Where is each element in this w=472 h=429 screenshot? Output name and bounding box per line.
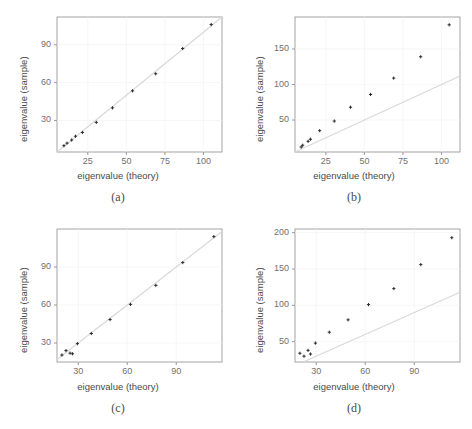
panel-caption: (b) xyxy=(236,190,472,205)
panel-caption: (d) xyxy=(236,401,472,416)
x-tick-label: 90 xyxy=(400,366,428,376)
y-tick-label: 90 xyxy=(41,261,51,271)
y-tick-label: 30 xyxy=(41,114,51,124)
x-tick-label: 25 xyxy=(312,156,340,166)
scatter-plot-b xyxy=(236,0,472,215)
x-tick-label: 60 xyxy=(351,366,379,376)
y-tick-label: 100 xyxy=(274,79,289,89)
figure-panel-grid: 306090255075100eigenvalue (sample)eigenv… xyxy=(0,0,472,429)
y-axis-title: eigenvalue (sample) xyxy=(254,267,265,353)
x-tick-label: 50 xyxy=(350,156,378,166)
x-tick-label: 100 xyxy=(189,156,217,166)
y-tick-label: 50 xyxy=(279,336,289,346)
y-tick-label: 200 xyxy=(274,227,289,237)
scatter-plot-c xyxy=(0,215,236,429)
x-tick-label: 50 xyxy=(112,156,140,166)
scatter-plot-d xyxy=(236,215,472,429)
y-tick-label: 150 xyxy=(274,263,289,273)
x-tick-label: 100 xyxy=(427,156,455,166)
x-axis-title: eigenvalue (theory) xyxy=(0,170,236,181)
panel-caption: (c) xyxy=(0,401,236,416)
x-tick-label: 90 xyxy=(162,366,190,376)
panel-c: 306090306090eigenvalue (sample)eigenvalu… xyxy=(0,215,236,429)
y-tick-label: 150 xyxy=(274,43,289,53)
x-axis-title: eigenvalue (theory) xyxy=(0,381,236,392)
x-tick-label: 75 xyxy=(389,156,417,166)
x-tick-label: 75 xyxy=(151,156,179,166)
x-axis-title: eigenvalue (theory) xyxy=(236,381,472,392)
panel-b: 50100150255075100eigenvalue (sample)eige… xyxy=(236,0,472,215)
y-axis-title: eigenvalue (sample) xyxy=(18,267,29,353)
y-axis-title: eigenvalue (sample) xyxy=(18,56,29,142)
x-tick-label: 30 xyxy=(302,366,330,376)
y-tick-label: 50 xyxy=(279,114,289,124)
y-tick-label: 90 xyxy=(41,39,51,49)
x-tick-label: 25 xyxy=(74,156,102,166)
plot-frame xyxy=(295,229,460,362)
y-tick-label: 30 xyxy=(41,337,51,347)
panel-a: 306090255075100eigenvalue (sample)eigenv… xyxy=(0,0,236,215)
y-tick-label: 60 xyxy=(41,299,51,309)
x-axis-title: eigenvalue (theory) xyxy=(236,170,472,181)
scatter-plot-a xyxy=(0,0,236,215)
y-axis-title: eigenvalue (sample) xyxy=(254,56,265,142)
x-tick-label: 60 xyxy=(113,366,141,376)
x-tick-label: 30 xyxy=(64,366,92,376)
panel-d: 50100150200306090eigenvalue (sample)eige… xyxy=(236,215,472,429)
y-tick-label: 60 xyxy=(41,77,51,87)
panel-caption: (a) xyxy=(0,190,236,205)
y-tick-label: 100 xyxy=(274,299,289,309)
